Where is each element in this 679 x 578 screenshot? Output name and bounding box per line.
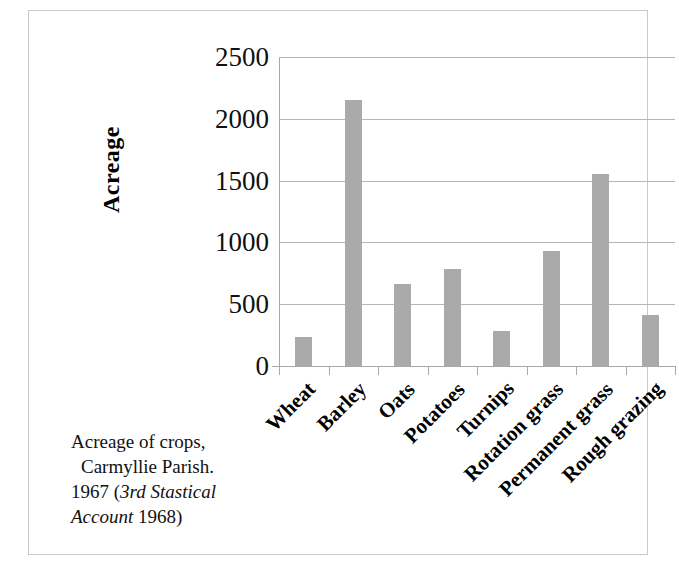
bar-slot	[576, 57, 626, 366]
y-tick-label: 0	[256, 353, 270, 380]
caption-source-italic-a: 3rd Stastical	[120, 481, 216, 502]
bar-slot	[329, 57, 379, 366]
caption-line-1: Acreage of crops,	[71, 429, 276, 454]
figure-frame: Acreage 25002000150010005000 WheatBarley…	[28, 10, 648, 555]
category-label-barley[interactable]: Barley	[312, 377, 372, 437]
y-axis-tick-labels: 25002000150010005000	[189, 57, 269, 366]
bar-slot	[378, 57, 428, 366]
caption-source-year: 1968)	[133, 506, 182, 527]
y-axis-title: Acreage	[98, 80, 125, 260]
bars-layer	[279, 57, 675, 366]
caption-line-3: 1967 (3rd Stastical	[71, 479, 276, 504]
caption-source-italic-b: Account	[71, 506, 133, 527]
bar-slot	[428, 57, 478, 366]
x-axis-category-labels: WheatBarleyOatsPotatoesTurnipsRotation g…	[279, 373, 679, 553]
bar-rough-grazing[interactable]	[642, 315, 659, 366]
caption-line-4: Account 1968)	[71, 504, 276, 529]
bar-slot	[626, 57, 676, 366]
y-tick-label: 1500	[215, 167, 269, 194]
bar-barley[interactable]	[345, 100, 362, 366]
bar-slot	[527, 57, 577, 366]
plot-area	[279, 57, 675, 366]
bar-oats[interactable]	[394, 284, 411, 366]
bar-permanent-grass[interactable]	[592, 174, 609, 366]
y-tick-label: 500	[229, 291, 270, 318]
bar-rotation-grass[interactable]	[543, 251, 560, 366]
y-tick-label: 2000	[215, 105, 269, 132]
category-label-text: Barley	[312, 377, 372, 437]
figure-caption: Acreage of crops, Carmyllie Parish. 1967…	[71, 429, 276, 529]
bar-wheat[interactable]	[295, 337, 312, 366]
bar-potatoes[interactable]	[444, 269, 461, 366]
caption-line-2: Carmyllie Parish.	[71, 454, 276, 479]
y-tick-label: 2500	[215, 44, 269, 71]
bar-slot	[477, 57, 527, 366]
bar-slot	[279, 57, 329, 366]
y-tick-label: 1000	[215, 229, 269, 256]
bar-turnips[interactable]	[493, 331, 510, 366]
caption-year: 1967 (	[71, 481, 120, 502]
